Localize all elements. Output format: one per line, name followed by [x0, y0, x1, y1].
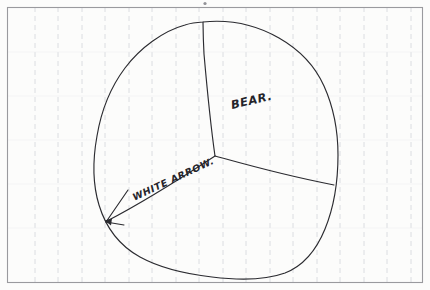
ink-drawing-layer: [0, 0, 430, 290]
partition-branch-right: [215, 156, 334, 185]
arrowhead-barb-upper: [106, 190, 128, 222]
partition-branch-up: [203, 22, 215, 156]
sketch-canvas: BEAR. WHITE ARROW.: [0, 0, 430, 290]
blob-outline: [94, 21, 338, 279]
